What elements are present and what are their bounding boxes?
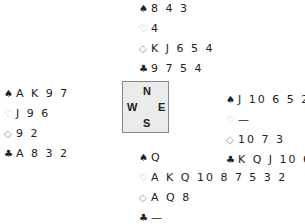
north-clubs-cards: 9 7 5 4 [151, 62, 203, 75]
club-icon: ♣ [139, 208, 151, 224]
south-spades: ♠Q [139, 148, 287, 168]
east-hearts: ♡— [226, 110, 305, 130]
south-spades-cards: Q [151, 151, 162, 164]
diamond-icon: ◇ [139, 39, 151, 59]
north-hearts: ♡4 [139, 19, 214, 39]
compass-south-label: S [143, 117, 150, 129]
east-spades: ♠J 10 6 5 2 [226, 90, 305, 110]
compass-west-label: W [127, 101, 137, 113]
south-hand: ♠Q ♡A K Q 10 8 7 5 3 2 ◇A Q 8 ♣— [139, 148, 287, 224]
west-hand: ♠A K 9 7 ♡J 9 6 ◇9 2 ♣A 8 3 2 [4, 84, 69, 164]
diamond-icon: ◇ [4, 124, 16, 144]
south-hearts-cards: A K Q 10 8 7 5 3 2 [151, 171, 287, 184]
north-diamonds: ◇K J 6 5 4 [139, 39, 214, 59]
east-hearts-cards: — [238, 113, 251, 126]
north-spades: ♠8 4 3 [139, 0, 214, 19]
club-icon: ♣ [139, 59, 151, 79]
south-clubs-cards: — [151, 211, 164, 224]
east-diamonds: ◇10 7 3 [226, 130, 305, 150]
spade-icon: ♠ [139, 148, 151, 168]
heart-icon: ♡ [139, 168, 151, 188]
north-hearts-cards: 4 [151, 22, 160, 35]
north-spades-cards: 8 4 3 [151, 2, 189, 15]
south-diamonds: ◇A Q 8 [139, 188, 287, 208]
north-clubs: ♣9 7 5 4 [139, 59, 214, 79]
compass-east-label: E [158, 101, 165, 113]
compass-north-label: N [143, 85, 151, 97]
heart-icon: ♡ [139, 19, 151, 39]
spade-icon: ♠ [139, 0, 151, 19]
south-diamonds-cards: A Q 8 [151, 191, 191, 204]
west-clubs: ♣A 8 3 2 [4, 144, 69, 164]
west-hearts-cards: J 9 6 [16, 107, 50, 120]
west-clubs-cards: A 8 3 2 [16, 147, 69, 160]
north-diamonds-cards: K J 6 5 4 [151, 42, 214, 55]
heart-icon: ♡ [4, 104, 16, 124]
east-spades-cards: J 10 6 5 2 [238, 93, 305, 106]
compass-box: N W E S [122, 81, 169, 133]
spade-icon: ♠ [226, 90, 238, 110]
south-hearts: ♡A K Q 10 8 7 5 3 2 [139, 168, 287, 188]
club-icon: ♣ [4, 144, 16, 164]
heart-icon: ♡ [226, 110, 238, 130]
west-diamonds-cards: 9 2 [16, 127, 40, 140]
spade-icon: ♠ [4, 84, 16, 104]
west-diamonds: ◇9 2 [4, 124, 69, 144]
west-spades-cards: A K 9 7 [16, 87, 69, 100]
east-diamonds-cards: 10 7 3 [238, 133, 285, 146]
south-clubs: ♣— [139, 208, 287, 224]
west-spades: ♠A K 9 7 [4, 84, 69, 104]
west-hearts: ♡J 9 6 [4, 104, 69, 124]
north-hand: ♠8 4 3 ♡4 ◇K J 6 5 4 ♣9 7 5 4 [139, 0, 214, 79]
diamond-icon: ◇ [226, 130, 238, 150]
diamond-icon: ◇ [139, 188, 151, 208]
